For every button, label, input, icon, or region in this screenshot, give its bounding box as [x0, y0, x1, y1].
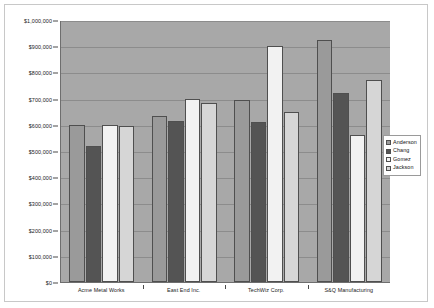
legend-item[interactable]: Chang: [386, 147, 417, 155]
bar: [69, 125, 85, 282]
y-tick-mark: [53, 256, 58, 257]
legend-item[interactable]: Anderson: [386, 139, 417, 147]
chart-legend: AndersonChangGomezJackson: [383, 135, 421, 176]
bar: [102, 125, 118, 282]
legend-swatch-icon: [386, 157, 391, 162]
x-tick-mark: [308, 285, 309, 289]
y-tick-label: $100,000: [29, 254, 52, 260]
y-tick-mark: [53, 178, 58, 179]
bar-group: [61, 21, 144, 282]
legend-label: Chang: [393, 148, 409, 153]
y-tick-label: $900,000: [29, 44, 52, 50]
bar: [168, 121, 184, 282]
legend-swatch-icon: [386, 149, 391, 154]
bars-layer: [61, 21, 390, 282]
chart-frame: $1,000,000$900,000$800,000$700,000$600,0…: [4, 4, 428, 302]
y-tick-label: $500,000: [29, 149, 52, 155]
y-tick-mark: [53, 204, 58, 205]
plot-area: [60, 21, 390, 283]
y-tick-label: $300,000: [29, 201, 52, 207]
bar: [350, 135, 366, 282]
y-tick-label: $400,000: [29, 175, 52, 181]
y-tick-mark: [53, 47, 58, 48]
bar-group: [144, 21, 227, 282]
x-tick-label: East End Inc.: [167, 287, 200, 293]
y-tick-label: $700,000: [29, 97, 52, 103]
legend-label: Anderson: [393, 140, 417, 145]
y-tick-mark: [53, 152, 58, 153]
legend-item[interactable]: Gomez: [386, 156, 417, 164]
bar: [86, 146, 102, 282]
legend-item[interactable]: Jackson: [386, 164, 417, 172]
bar: [234, 100, 250, 282]
bar-group: [226, 21, 309, 282]
y-tick-mark: [53, 73, 58, 74]
x-tick-mark: [225, 285, 226, 289]
y-tick-mark: [53, 99, 58, 100]
y-tick-label: $1,000,000: [24, 18, 52, 24]
bar: [267, 46, 283, 282]
y-tick-label: $800,000: [29, 70, 52, 76]
y-tick-label: $0: [46, 280, 52, 286]
bar: [333, 93, 349, 282]
bar: [152, 116, 168, 282]
bar: [284, 112, 300, 282]
x-axis: Acme Metal WorksEast End Inc.TechWiz Cor…: [60, 285, 390, 301]
y-tick-mark: [53, 125, 58, 126]
y-tick-label: $600,000: [29, 123, 52, 129]
legend-swatch-icon: [386, 140, 391, 145]
y-tick-label: $200,000: [29, 228, 52, 234]
bar: [317, 40, 333, 282]
bar: [366, 80, 382, 282]
x-tick-mark: [143, 285, 144, 289]
x-tick-label: TechWiz Corp.: [248, 287, 284, 293]
bar: [119, 126, 135, 282]
legend-label: Gomez: [393, 157, 411, 162]
bar: [201, 103, 217, 282]
bar: [251, 122, 267, 282]
y-tick-mark: [53, 230, 58, 231]
y-tick-mark: [53, 21, 58, 22]
y-axis: $1,000,000$900,000$800,000$700,000$600,0…: [5, 21, 58, 283]
y-tick-mark: [53, 283, 58, 284]
x-tick-label: S&Q Manufacturing: [324, 287, 373, 293]
legend-swatch-icon: [386, 166, 391, 171]
bar-group: [309, 21, 392, 282]
x-tick-label: Acme Metal Works: [78, 287, 125, 293]
bar: [185, 99, 201, 282]
legend-label: Jackson: [393, 165, 413, 170]
